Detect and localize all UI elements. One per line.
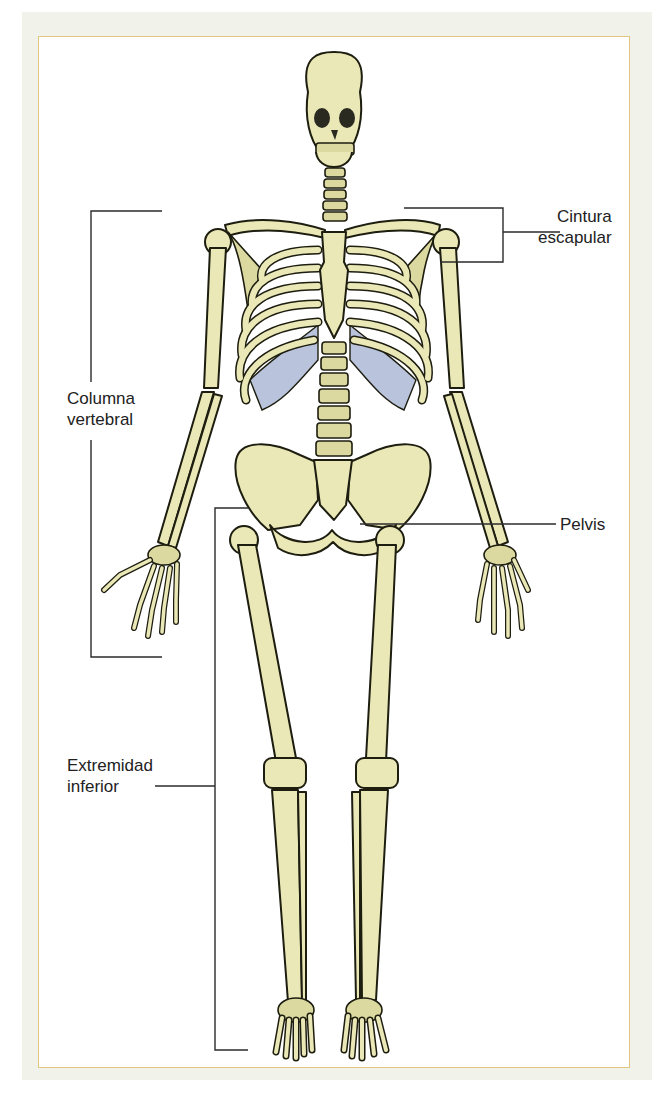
skeleton-illustration [0,0,662,1093]
label-extremidad-inferior: Extremidad inferior [67,755,153,797]
label-line: Pelvis [560,514,605,535]
label-pelvis: Pelvis [560,514,605,535]
lumbar-spine [316,342,352,456]
label-line: Columna [67,388,135,409]
skull [306,52,362,167]
label-columna-vertebral: Columna vertebral [67,388,135,430]
cervical-spine [323,168,347,221]
sternum [320,232,348,338]
label-line: vertebral [67,409,135,430]
label-line: inferior [67,776,153,797]
label-line: escapular [538,227,612,248]
label-line: Extremidad [67,755,153,776]
label-line: Cintura [546,206,612,227]
label-cintura-escapular: Cintura escapular [546,206,612,248]
legs [230,526,404,1058]
